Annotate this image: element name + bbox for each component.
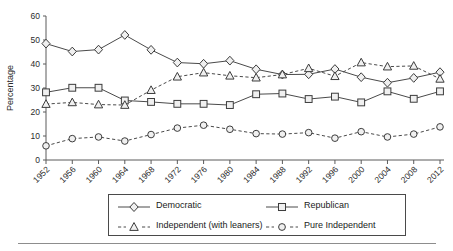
- data-point: [95, 84, 102, 91]
- data-point: [253, 91, 260, 98]
- x-tick-label: 1976: [189, 164, 210, 185]
- x-tick-label: 1988: [267, 164, 288, 185]
- x-tick-label: 1992: [294, 164, 315, 185]
- y-tick-label: 0: [35, 155, 40, 165]
- legend-label: Independent (with leaners): [156, 220, 263, 230]
- legend-item-independent-with-leaners[interactable]: Independent (with leaners): [117, 219, 265, 231]
- circle-marker-icon: [265, 219, 299, 231]
- data-point: [332, 93, 339, 100]
- data-point: [121, 138, 128, 145]
- data-point: [226, 102, 233, 109]
- legend-item-democratic[interactable]: Democratic: [117, 199, 265, 211]
- x-tick-label: 1952: [31, 164, 52, 185]
- data-point: [147, 86, 155, 94]
- series-democratic: [42, 31, 444, 88]
- data-point: [331, 72, 339, 80]
- footer-divider: [18, 243, 436, 244]
- x-tick-label: 2004: [372, 164, 393, 185]
- diamond-marker-icon: [117, 199, 151, 211]
- y-tick-label: 60: [31, 11, 41, 21]
- data-point: [226, 71, 234, 79]
- series-layer: [42, 31, 444, 150]
- square-marker-icon: [265, 199, 299, 211]
- data-point: [174, 125, 181, 132]
- data-point: [68, 98, 76, 106]
- data-point: [148, 99, 155, 106]
- y-tick-label: 30: [31, 83, 41, 93]
- data-point: [95, 134, 102, 141]
- data-point: [148, 131, 155, 138]
- x-tick-label: 1996: [320, 164, 341, 185]
- data-point: [227, 126, 234, 133]
- data-point: [357, 58, 365, 66]
- data-point: [95, 45, 103, 54]
- data-point: [410, 95, 417, 102]
- data-point: [253, 130, 260, 137]
- data-point: [383, 62, 391, 70]
- data-point: [199, 68, 207, 76]
- chart-legend: DemocraticRepublicanIndependent (with le…: [108, 194, 406, 236]
- data-point: [383, 78, 391, 87]
- y-axis-title: Percentage: [5, 65, 15, 111]
- x-tick-label: 2000: [346, 164, 367, 185]
- data-point: [357, 73, 365, 82]
- x-tick-label: 2008: [399, 164, 420, 185]
- x-tick-label: 1980: [215, 164, 236, 185]
- legend-label: Republican: [304, 200, 349, 210]
- legend-label: Democratic: [156, 200, 202, 210]
- data-point: [384, 88, 391, 95]
- data-point: [436, 75, 444, 83]
- x-axis: 1952195619601964196819721976198019841988…: [31, 160, 446, 185]
- data-point: [437, 88, 444, 95]
- data-point: [200, 59, 208, 68]
- x-tick-label: 1964: [110, 164, 131, 185]
- data-point: [42, 39, 50, 48]
- series-pure-independent: [43, 122, 444, 149]
- data-point: [279, 90, 286, 97]
- data-point: [69, 135, 76, 142]
- data-point: [43, 89, 50, 96]
- legend-item-pure-independent[interactable]: Pure Independent: [265, 219, 407, 231]
- data-point: [200, 122, 207, 129]
- data-point: [147, 45, 155, 54]
- data-point: [410, 131, 417, 138]
- chart-figure: 0102030405060 19521956196019641968197219…: [0, 0, 453, 251]
- data-point: [173, 58, 181, 67]
- data-point: [94, 100, 102, 108]
- y-axis: 0102030405060: [31, 11, 46, 165]
- data-point: [358, 99, 365, 106]
- triangle-marker-icon: [117, 219, 151, 231]
- data-point: [305, 96, 312, 103]
- x-tick-label: 1968: [136, 164, 157, 185]
- y-tick-label: 50: [31, 35, 41, 45]
- data-point: [332, 135, 339, 142]
- data-point: [384, 134, 391, 141]
- x-tick-label: 1956: [57, 164, 78, 185]
- data-point: [174, 100, 181, 107]
- data-point: [305, 64, 313, 72]
- y-tick-label: 10: [31, 131, 41, 141]
- x-tick-label: 2012: [425, 164, 446, 185]
- data-point: [279, 131, 286, 138]
- data-point: [305, 129, 312, 136]
- data-point: [410, 74, 418, 83]
- data-point: [200, 100, 207, 107]
- y-tick-label: 20: [31, 107, 41, 117]
- data-point: [68, 47, 76, 56]
- y-tick-label: 40: [31, 59, 41, 69]
- data-point: [121, 31, 129, 40]
- legend-item-republican[interactable]: Republican: [265, 199, 407, 211]
- x-tick-label: 1972: [162, 164, 183, 185]
- x-tick-label: 1984: [241, 164, 262, 185]
- legend-label: Pure Independent: [304, 220, 376, 230]
- data-point: [358, 128, 365, 135]
- data-point: [69, 84, 76, 91]
- x-tick-label: 1960: [83, 164, 104, 185]
- data-point: [43, 143, 50, 150]
- data-point: [226, 56, 234, 65]
- data-point: [410, 62, 418, 70]
- data-point: [437, 124, 444, 131]
